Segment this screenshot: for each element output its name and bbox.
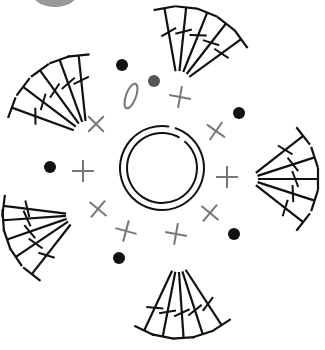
shell-fan-top: [154, 6, 248, 76]
chain-dot-icon: [228, 228, 240, 240]
double-crochet-icon: [173, 272, 195, 339]
ring-inner: [127, 133, 197, 203]
chain-dot-icon: [44, 161, 56, 173]
ring-outer: [120, 126, 204, 210]
single-crochet-icon: [201, 116, 232, 147]
single-crochet-icon: [167, 84, 192, 109]
double-crochet-icon: [256, 185, 310, 231]
top-partial-circle: [33, 0, 77, 7]
chain-dot-icon: [116, 59, 128, 71]
slip-stitch-oval: [122, 82, 140, 110]
chain-dot-icon: [113, 252, 125, 264]
double-crochet-icon: [256, 127, 310, 173]
double-crochet-icon: [134, 271, 172, 335]
single-crochet-icon: [72, 160, 94, 182]
single-crochet-marks: [72, 84, 238, 246]
single-crochet-icon: [216, 166, 238, 188]
crochet-diagram: [0, 0, 325, 350]
double-crochet-icon: [258, 168, 318, 190]
chain-dot-icon: [148, 75, 160, 87]
single-crochet-icon: [163, 221, 188, 246]
double-crochet-icon: [154, 6, 176, 71]
double-crochet-icon: [2, 195, 66, 217]
double-crochet-icon: [258, 182, 318, 211]
chain-dots: [44, 59, 245, 264]
shell-fan-bottom: [134, 270, 231, 339]
shell-fan-right: [256, 127, 318, 231]
shell-fan-upper-left: [8, 54, 90, 130]
chain-dot-icon: [233, 107, 245, 119]
shell-fan-lower-left: [2, 195, 70, 281]
magic-ring: [120, 126, 204, 210]
single-crochet-icon: [113, 218, 140, 245]
single-crochet-icon: [195, 198, 226, 229]
double-crochet-icon: [175, 6, 197, 71]
single-crochet-icon: [83, 194, 114, 225]
